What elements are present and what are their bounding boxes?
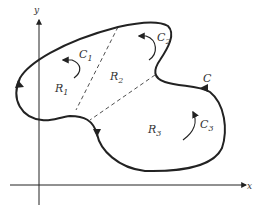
- label-c: C: [203, 72, 212, 85]
- curve-arrow-bottom-icon: [93, 129, 101, 137]
- circulation-c3-icon: [183, 112, 195, 140]
- dashed-cut-1: [76, 27, 118, 110]
- y-axis-label: y: [33, 5, 40, 15]
- x-axis-label: x: [247, 181, 252, 191]
- label-r1: R1: [54, 82, 68, 97]
- circulation-c2-icon: [139, 36, 155, 60]
- label-c1: C1: [79, 48, 93, 63]
- circulation-c1-icon: [63, 60, 80, 78]
- label-c2: C2: [157, 31, 171, 46]
- curve-arrow-right-icon: [200, 84, 208, 92]
- label-c3: C3: [200, 118, 214, 133]
- closed-curve-c: [16, 22, 224, 171]
- green-theorem-diagram: y x C1 C2 C3 C R1 R2 R3: [0, 0, 257, 210]
- axes: y x: [10, 5, 252, 205]
- label-r3: R3: [147, 123, 161, 138]
- label-r2: R2: [109, 70, 123, 85]
